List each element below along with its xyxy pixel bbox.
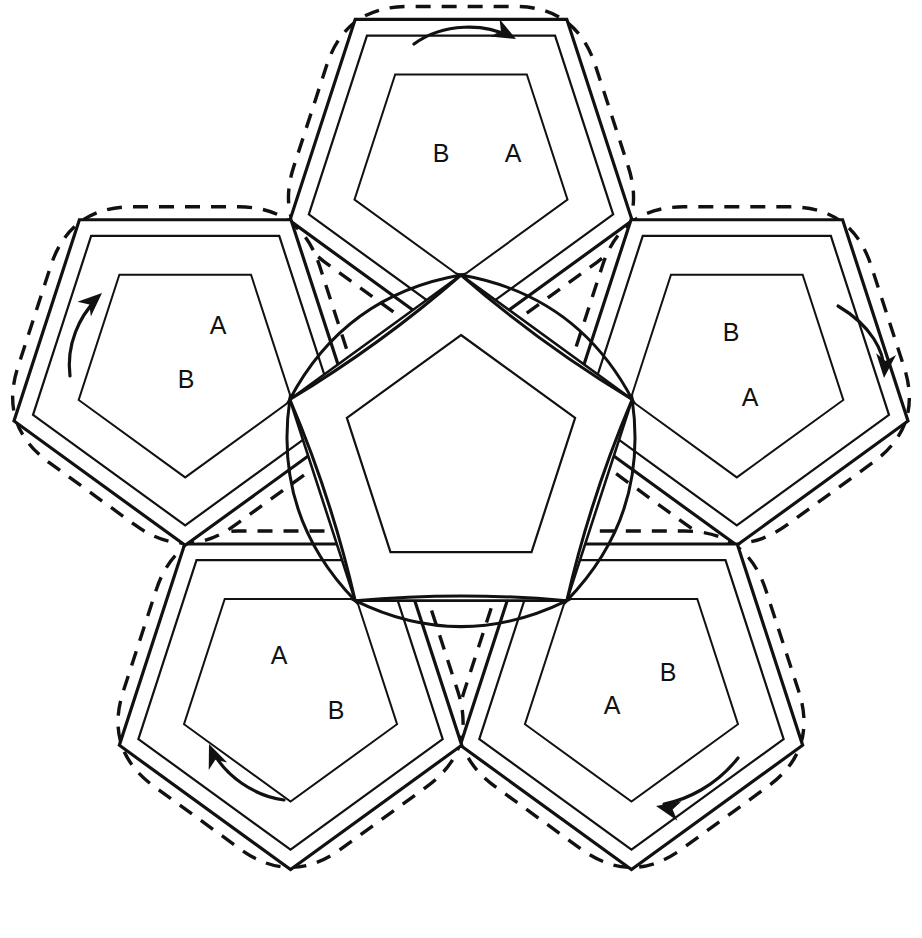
fold-label-b: B <box>433 139 450 167</box>
fold-label-a: A <box>505 139 522 167</box>
fold-label-a: A <box>210 311 227 339</box>
fold-label-a: A <box>742 383 759 411</box>
fold-label-a: A <box>271 641 288 669</box>
fold-label-b: B <box>178 365 195 393</box>
figure-svg: BAABBAABBA <box>0 0 922 938</box>
module-outer-pentagon <box>566 220 908 546</box>
fold-label-a: A <box>604 691 621 719</box>
fold-label-b: B <box>660 658 677 686</box>
fold-label-b: B <box>328 696 345 724</box>
diagram-canvas: BAABBAABBA <box>0 0 922 938</box>
fold-label-b: B <box>723 318 740 346</box>
core-pentagon-group <box>290 275 632 601</box>
pentagon-module <box>564 207 909 546</box>
